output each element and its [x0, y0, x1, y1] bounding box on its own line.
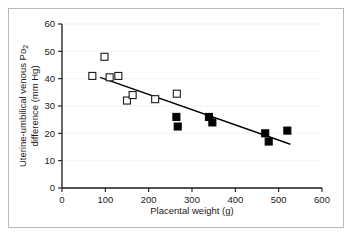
y-tick-label-60: 60 [44, 18, 55, 29]
x-tick-label-0: 0 [59, 194, 64, 205]
marker-open-squares-1 [101, 53, 108, 60]
y-title-main: Uterine-umbilical venous Po [17, 49, 28, 167]
marker-filled-squares-1 [174, 123, 181, 130]
x-axis-title: Placental weight (g) [150, 205, 233, 216]
x-axis-tick-labels: 0100200300400500600 [59, 194, 330, 205]
y-axis-title-line2: difference (mm Hg) [29, 65, 40, 146]
y-title-subscript: 2 [22, 45, 29, 49]
x-tick-label-500: 500 [271, 194, 287, 205]
figure-container: 0102030405060 0100200300400500600 Placen… [0, 0, 354, 242]
marker-filled-squares-6 [284, 127, 291, 134]
x-tick-label-300: 300 [184, 194, 200, 205]
x-tick-label-600: 600 [314, 194, 330, 205]
y-tick-label-10: 10 [44, 155, 55, 166]
series-filled-squares [173, 113, 291, 145]
marker-open-squares-0 [89, 72, 96, 79]
y-tick-label-50: 50 [44, 46, 55, 57]
marker-filled-squares-4 [262, 130, 269, 137]
marker-open-squares-6 [152, 96, 159, 103]
y-tick-label-20: 20 [44, 128, 55, 139]
marker-open-squares-7 [173, 90, 180, 97]
y-axis-title: Uterine-umbilical venous Po2 difference … [17, 45, 40, 167]
marker-filled-squares-5 [265, 138, 272, 145]
marker-open-squares-5 [129, 92, 136, 99]
x-tick-label-100: 100 [97, 194, 113, 205]
y-axis-title-line1: Uterine-umbilical venous Po2 [17, 45, 29, 167]
y-axis-tick-labels: 0102030405060 [44, 18, 55, 193]
marker-filled-squares-0 [173, 113, 180, 120]
y-tick-label-40: 40 [44, 73, 55, 84]
scatter-plot: 0102030405060 0100200300400500600 Placen… [0, 0, 354, 242]
marker-open-squares-2 [106, 74, 113, 81]
x-tick-label-200: 200 [141, 194, 157, 205]
y-tick-label-0: 0 [50, 182, 55, 193]
y-tick-label-30: 30 [44, 100, 55, 111]
gridlines [62, 24, 322, 188]
marker-filled-squares-3 [209, 119, 216, 126]
x-axis-title-text: Placental weight (g) [150, 205, 233, 216]
x-tick-label-400: 400 [227, 194, 243, 205]
marker-open-squares-3 [115, 72, 122, 79]
